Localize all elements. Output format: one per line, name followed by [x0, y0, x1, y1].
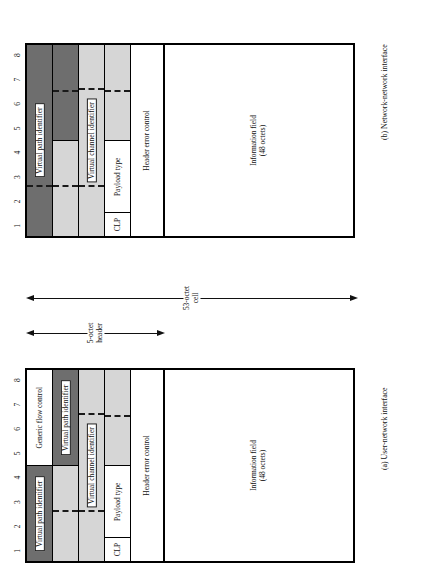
measure-line1: 5-octet: [87, 323, 96, 344]
field-information-field-a: Information field (48 octets): [165, 370, 353, 561]
bit-number: 3: [13, 165, 24, 189]
field-payload-type-a: Payload type: [105, 465, 130, 537]
field-label-group: Information field (48 octets): [250, 115, 267, 166]
octet-row-4-b: CLP Payload type: [105, 45, 131, 236]
octet-row-1-a: Virtual path identifier Generic flow con…: [27, 370, 53, 561]
continuation-dash-icon: [79, 510, 104, 512]
measure-label-group: 53-octet cell: [183, 285, 200, 311]
panel-user-network-interface: 1 2 3 4 5 6 7 8 Virtual path identifier …: [25, 368, 355, 563]
octet-row-information-field-a: Information field (48 octets): [165, 370, 353, 561]
bit-number: 3: [13, 490, 24, 514]
cell-diagram-b: Virtual path identifier Virtual channel …: [25, 43, 355, 238]
continuation-dash-icon: [79, 88, 104, 90]
field-label: Header error control: [143, 435, 152, 495]
bit-number-ruler-b: 1 2 3 4 5 6 7 8: [13, 43, 24, 238]
bit-number: 4: [13, 141, 24, 165]
field-virtual-channel-identifier-a3: Virtual channel identifier: [79, 370, 104, 561]
arrow-head-right-icon: [157, 330, 165, 336]
field-virtual-channel-identifier-b3: Virtual channel identifier: [79, 45, 104, 236]
field-label-group: Information field (48 octets): [250, 440, 267, 491]
field-label: CLP: [113, 543, 122, 557]
caption-panel-b: (b) Network-network interface: [380, 44, 389, 140]
bit-number: 5: [13, 116, 24, 140]
field-label: Virtual channel identifier: [86, 423, 96, 508]
bit-number: 2: [13, 514, 24, 538]
bit-number: 8: [13, 368, 24, 392]
field-virtual-path-identifier-b1: Virtual path identifier: [27, 45, 52, 236]
octet-row-5-b: Header error control: [131, 45, 165, 236]
information-field-line2: (48 octets): [259, 115, 268, 166]
field-generic-flow-control-a: Generic flow control: [27, 370, 52, 465]
octet-row-3-b: Virtual channel identifier: [79, 45, 105, 236]
measure-line2: cell: [192, 286, 201, 310]
field-payload-type-b: Payload type: [105, 140, 130, 212]
measure-53-octet-cell: 53-octet cell: [26, 290, 358, 306]
bit-number: 2: [13, 189, 24, 213]
continuation-dash-icon: [105, 90, 130, 92]
field-virtual-path-identifier-a2: Virtual path identifier: [53, 370, 78, 465]
field-label: Virtual path identifier: [60, 381, 70, 455]
continuation-dash-icon: [53, 185, 78, 187]
field-label: Virtual path identifier: [34, 477, 44, 551]
field-label: CLP: [113, 218, 122, 232]
cell-diagram-a: Virtual path identifier Generic flow con…: [25, 368, 355, 563]
continuation-dash-icon: [79, 413, 104, 415]
arrow-head-left-icon: [26, 330, 34, 336]
octet-row-3-a: Virtual channel identifier: [79, 370, 105, 561]
bit-number: 7: [13, 392, 24, 416]
octet-row-information-field-b: Information field (48 octets): [165, 45, 353, 236]
field-header-error-control-a: Header error control: [131, 370, 163, 561]
continuation-dash-icon: [105, 415, 130, 417]
continuation-dash-icon: [27, 185, 52, 187]
bit-number: 6: [13, 92, 24, 116]
octet-row-4-a: CLP Payload type: [105, 370, 131, 561]
field-label: Virtual channel identifier: [86, 98, 96, 183]
bit-number: 5: [13, 441, 24, 465]
field-virtual-channel-identifier-b4: [105, 45, 130, 140]
field-label: Payload type: [113, 483, 122, 521]
field-virtual-channel-identifier-b2: [53, 140, 78, 236]
field-virtual-channel-identifier-a4: [105, 370, 130, 465]
octet-row-1-b: Virtual path identifier: [27, 45, 53, 236]
field-label: Virtual path identifier: [34, 103, 44, 177]
field-label: Payload type: [113, 158, 122, 196]
field-clp-b: CLP: [105, 212, 130, 236]
measure-5-octet-header: 5-octet header: [26, 325, 165, 341]
field-header-error-control-b: Header error control: [131, 45, 163, 236]
field-virtual-channel-identifier-a2: [53, 465, 78, 561]
bit-number: 4: [13, 466, 24, 490]
bit-number: 1: [13, 539, 24, 563]
field-virtual-path-identifier-b2: [53, 45, 78, 140]
octet-row-2-a: Virtual path identifier: [53, 370, 79, 561]
measure-label-group: 5-octet header: [87, 322, 104, 345]
arrow-head-right-icon: [350, 295, 358, 301]
bit-number: 7: [13, 67, 24, 91]
arrow-head-left-icon: [26, 295, 34, 301]
bit-number-ruler-a: 1 2 3 4 5 6 7 8: [13, 368, 24, 563]
bit-number: 1: [13, 214, 24, 238]
bit-number: 8: [13, 43, 24, 67]
field-label: Header error control: [143, 110, 152, 170]
field-clp-a: CLP: [105, 537, 130, 561]
bit-number: 6: [13, 417, 24, 441]
field-information-field-b: Information field (48 octets): [165, 45, 353, 236]
field-label: Generic flow control: [35, 387, 44, 449]
continuation-dash-icon: [53, 90, 78, 92]
panel-network-network-interface: 1 2 3 4 5 6 7 8 Virtual path identifier: [25, 43, 355, 238]
field-virtual-path-identifier-a1: Virtual path identifier: [27, 465, 52, 561]
continuation-dash-icon: [79, 185, 104, 187]
measure-line2: header: [96, 323, 105, 344]
caption-panel-a: (a) User-network interface: [380, 387, 389, 470]
octet-row-2-b: [53, 45, 79, 236]
information-field-line2: (48 octets): [259, 440, 268, 491]
octet-row-5-a: Header error control: [131, 370, 165, 561]
continuation-dash-icon: [53, 510, 78, 512]
